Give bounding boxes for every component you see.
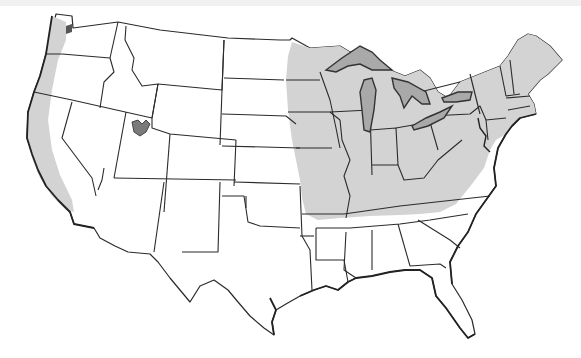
us-map-svg [0,0,581,358]
us-map [0,0,581,358]
top-ghost-band [0,0,581,6]
lake-ontario [442,92,472,102]
